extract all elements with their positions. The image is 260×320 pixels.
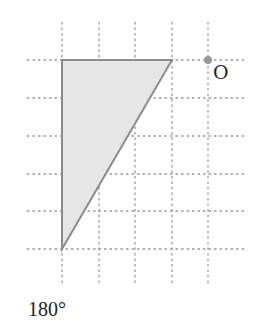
rotation-grid-figure: [0, 0, 260, 320]
rotation-angle-caption: 180°: [28, 299, 66, 319]
point-o-label: O: [213, 63, 229, 82]
rotation-center-point: [204, 56, 212, 64]
shaded-triangle: [62, 60, 172, 249]
